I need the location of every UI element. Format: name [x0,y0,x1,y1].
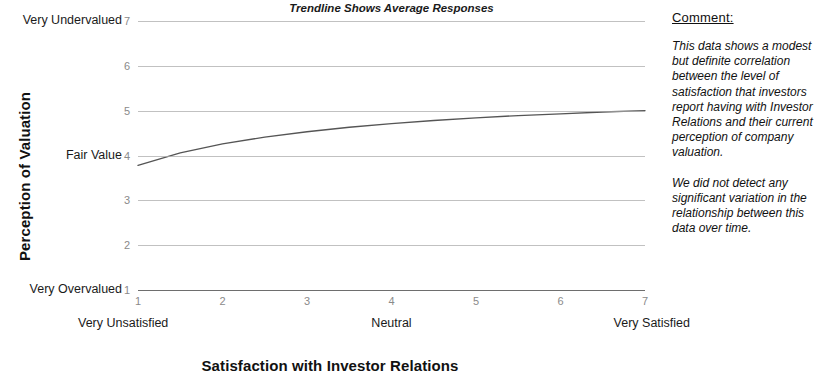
comment-paragraph: This data shows a modest but definite co… [672,39,818,161]
x-category-very-unsatisfied: Very Unsatisfied [78,316,168,330]
x-axis-category-labels: Very Unsatisfied Neutral Very Satisfied [138,316,645,334]
trendline-path [138,111,645,166]
y-tick-label: 7 [114,15,130,27]
y-category-very-overvalued: Very Overvalued [4,282,122,296]
y-tick-label: 5 [114,105,130,117]
comment-panel: Comment: This data shows a modest but de… [672,10,818,251]
x-tick-label: 1 [128,295,148,307]
gridline [138,21,645,22]
gridline [138,111,645,112]
comment-paragraph: We did not detect any significant variat… [672,176,818,237]
x-axis-line [138,290,645,291]
y-tick-label: 4 [114,150,130,162]
gridline [138,156,645,157]
y-tick-label: 6 [114,60,130,72]
x-tick-label: 6 [551,295,571,307]
y-category-fair-value: Fair Value [4,148,122,162]
y-tick-label: 3 [114,194,130,206]
x-tick-label: 2 [213,295,233,307]
y-category-very-undervalued: Very Undervalued [4,13,122,27]
x-axis-tick-labels: 1234567 [138,295,645,311]
chart-title: Trendline Shows Average Responses [138,2,645,14]
gridline [138,66,645,67]
gridline [138,200,645,201]
x-tick-label: 5 [466,295,486,307]
plot-area [138,21,645,290]
x-category-neutral: Neutral [371,316,411,330]
chart-container: Trendline Shows Average Responses Percep… [0,0,660,384]
gridline [138,245,645,246]
x-tick-label: 4 [382,295,402,307]
x-axis-title: Satisfaction with Investor Relations [0,357,660,374]
x-category-very-satisfied: Very Satisfied [614,316,690,330]
x-tick-label: 3 [297,295,317,307]
y-tick-label: 2 [114,239,130,251]
comment-heading: Comment: [672,10,818,25]
x-tick-label: 7 [635,295,655,307]
